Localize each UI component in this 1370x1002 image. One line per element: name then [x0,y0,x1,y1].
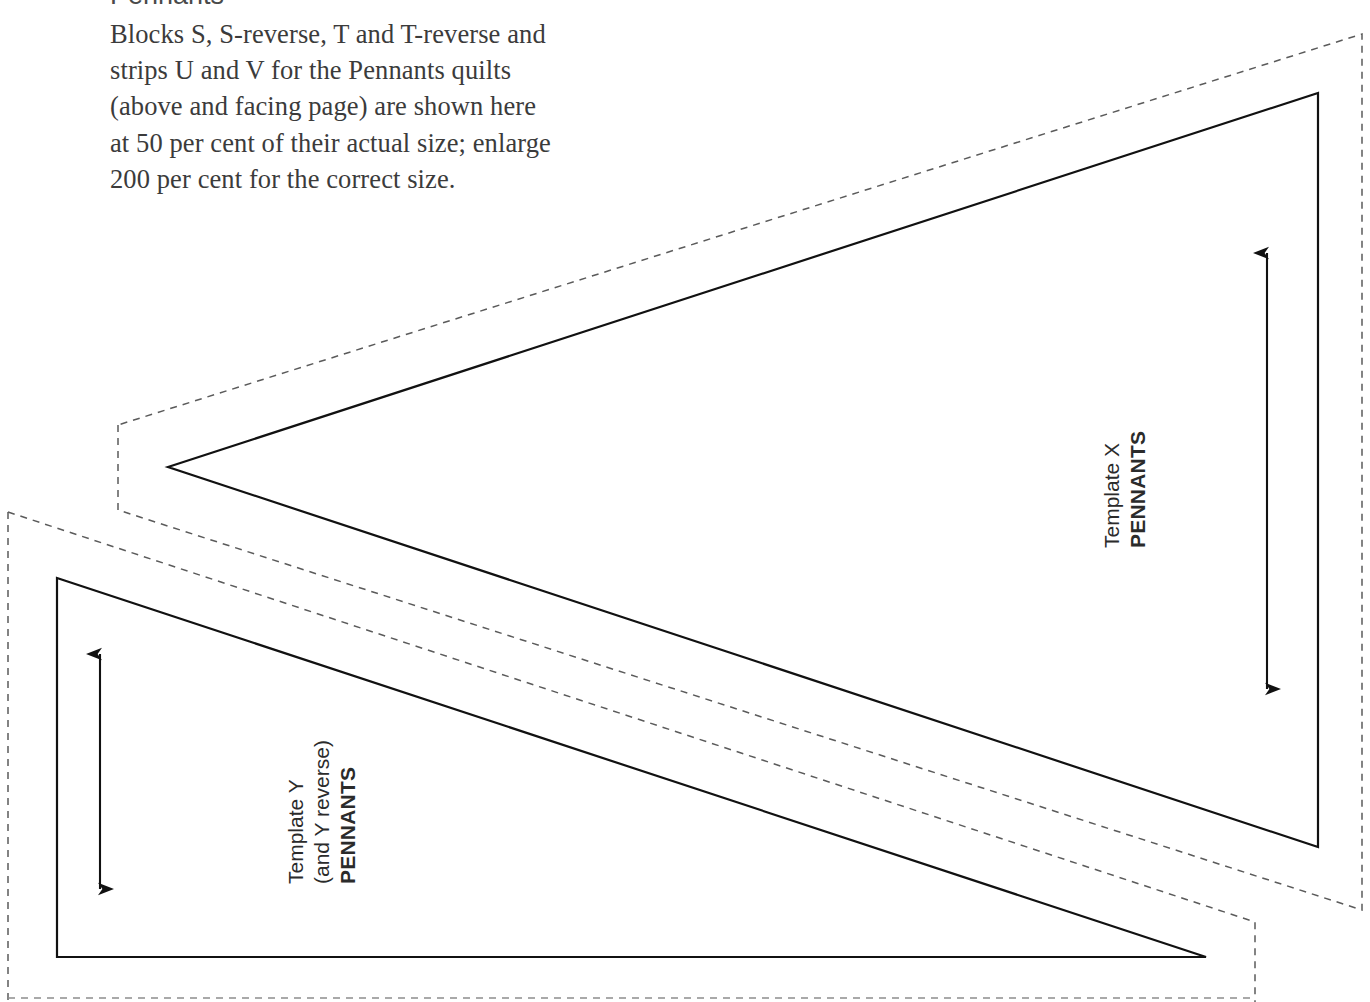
template-x-label-line: Template X [1099,431,1125,548]
template-y-label-line: Template Y [283,740,309,884]
template-y-label: Template Y (and Y reverse) PENNANTS [283,740,361,884]
template-y-sew-outline [57,578,1206,957]
template-y-label-line: (and Y reverse) [309,740,335,884]
template-drawing-canvas [0,0,1370,1002]
template-sheet-page: Pennants Blocks S, S-reverse, T and T-re… [0,0,1370,1002]
template-y-cut-outline [8,512,1255,1002]
template-x-label-line: PENNANTS [1125,431,1151,548]
template-x-label: Template X PENNANTS [1099,431,1151,548]
template-y-label-line: PENNANTS [335,740,361,884]
